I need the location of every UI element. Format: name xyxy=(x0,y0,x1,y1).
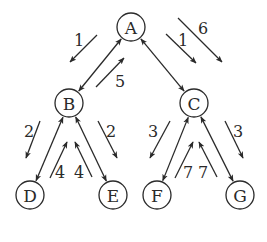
message-arrow: 3 xyxy=(148,121,170,158)
message-label: 3 xyxy=(233,122,243,141)
node-label: C xyxy=(187,94,200,114)
message-arrow: 5 xyxy=(96,58,125,91)
message-arrow: 2 xyxy=(98,121,117,158)
message-arrow: 2 xyxy=(24,121,40,158)
message-label: 3 xyxy=(148,122,158,141)
message-label: 2 xyxy=(24,122,34,141)
message-label: 7 xyxy=(183,163,193,182)
message-label: 4 xyxy=(55,163,65,182)
node-c: C xyxy=(180,89,208,117)
node-e: E xyxy=(99,181,127,209)
node-d: D xyxy=(16,181,44,209)
node-label: F xyxy=(151,186,163,206)
message-arrow: 3 xyxy=(225,121,243,158)
message-label: 1 xyxy=(74,31,84,50)
message-label: 7 xyxy=(198,163,208,182)
message-arrow: 7 xyxy=(198,142,217,182)
message-label: 4 xyxy=(74,163,84,182)
node-f: F xyxy=(143,181,171,209)
message-label: 6 xyxy=(198,19,208,38)
node-label: E xyxy=(107,186,119,206)
message-arrow: 1 xyxy=(70,31,97,63)
tree-diagram: 151624423773 ABCDEFG xyxy=(0,0,267,242)
node-g: G xyxy=(226,181,254,209)
message-label: 5 xyxy=(115,72,125,91)
message-label: 1 xyxy=(178,31,188,50)
node-label: A xyxy=(124,18,138,38)
nodes-layer: ABCDEFG xyxy=(16,13,254,209)
node-b: B xyxy=(55,89,83,117)
node-label: D xyxy=(23,186,37,206)
node-label: B xyxy=(63,94,76,114)
message-arrow: 4 xyxy=(74,142,92,182)
message-label: 2 xyxy=(106,122,116,141)
message-arrow: 4 xyxy=(50,142,67,182)
node-label: G xyxy=(233,186,247,206)
message-arrow: 1 xyxy=(166,31,196,64)
message-arrow: 7 xyxy=(175,142,193,182)
node-a: A xyxy=(117,13,145,41)
